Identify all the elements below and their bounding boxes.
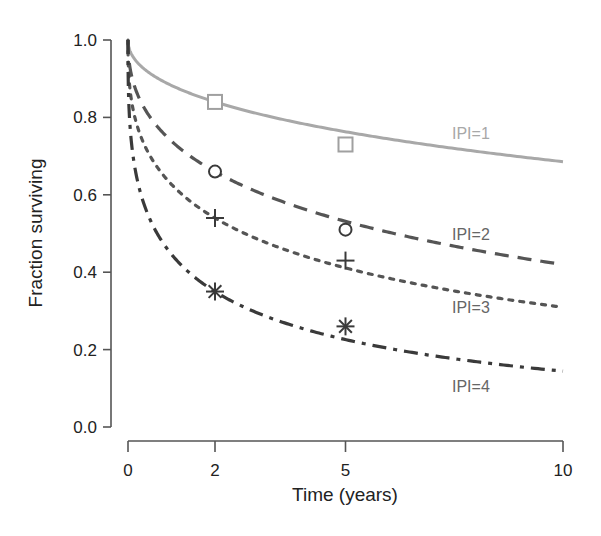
- y-tick-label: 0.8: [73, 108, 97, 127]
- square-marker: [208, 95, 222, 109]
- circle-marker: [209, 166, 221, 178]
- series-label-ipi-1: IPI=1: [452, 125, 490, 142]
- y-axis-title: Fraction surviving: [25, 159, 46, 308]
- x-axis-title: Time (years): [292, 484, 398, 505]
- x-axis: 02510: [123, 441, 572, 480]
- y-tick-label: 0.4: [73, 263, 97, 282]
- series-label-ipi-3: IPI=3: [452, 299, 490, 316]
- circle-marker: [340, 224, 352, 236]
- x-tick-label: 2: [210, 461, 219, 480]
- y-tick-label: 0.0: [73, 418, 97, 437]
- asterisk-marker: [206, 283, 224, 301]
- plus-marker: [206, 209, 224, 227]
- x-tick-label: 0: [123, 461, 132, 480]
- x-tick-label: 5: [341, 461, 350, 480]
- survival-chart: 0.00.20.40.60.81.0 02510 IPI=1IPI=2IPI=3…: [0, 0, 601, 536]
- asterisk-marker: [337, 317, 355, 335]
- series-labels: IPI=1IPI=2IPI=3IPI=4: [452, 125, 490, 395]
- square-marker: [339, 137, 353, 151]
- y-tick-label: 1.0: [73, 31, 97, 50]
- y-axis: 0.00.20.40.60.81.0: [73, 31, 111, 437]
- x-tick-label: 10: [554, 461, 573, 480]
- y-tick-label: 0.2: [73, 341, 97, 360]
- series-label-ipi-2: IPI=2: [452, 226, 490, 243]
- y-tick-label: 0.6: [73, 186, 97, 205]
- series-label-ipi-4: IPI=4: [452, 378, 490, 395]
